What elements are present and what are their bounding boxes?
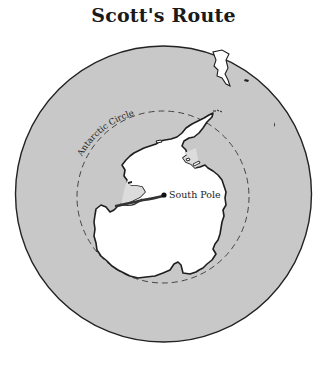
polar-map: South Pole Antarctic Circle — [0, 0, 327, 365]
south-pole-marker — [161, 192, 166, 197]
south-pole-label: South Pole — [169, 189, 221, 200]
